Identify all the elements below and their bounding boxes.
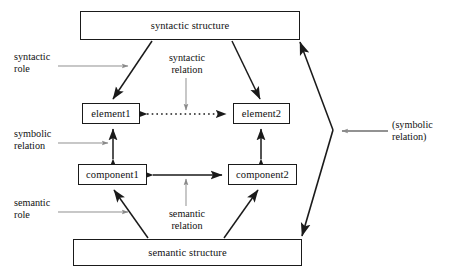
label-syntactic-relation: syntactic relation <box>158 52 216 76</box>
label-semantic-role-line1: semantic <box>14 197 50 209</box>
edge-semantic-structure-to-component2 <box>224 190 258 238</box>
node-syntactic-structure[interactable]: syntactic structure <box>80 11 300 40</box>
label-semantic-role: semantic role <box>14 197 50 221</box>
label-symbolic-relation: symbolic relation <box>14 128 51 152</box>
label-symbolic-relation-line1: symbolic <box>14 128 51 140</box>
label-semantic-role-line2: role <box>14 209 50 221</box>
label-syntactic-role-line1: syntactic <box>14 51 50 63</box>
node-semantic-structure-label: semantic structure <box>148 247 226 258</box>
edge-syntactic-structure-to-element2 <box>232 41 260 99</box>
label-semantic-relation-line1: semantic <box>158 208 216 220</box>
label-symbolic-relation-paren-line2: relation) <box>392 131 433 143</box>
node-element1[interactable]: element1 <box>82 103 140 124</box>
node-component2[interactable]: component2 <box>228 164 297 185</box>
node-element2[interactable]: element2 <box>233 103 290 124</box>
node-element1-label: element1 <box>91 108 130 119</box>
label-syntactic-role: syntactic role <box>14 51 50 75</box>
label-semantic-relation-line2: relation <box>158 220 216 232</box>
diagram-connectors: element2 dotted --> component1 vertical … <box>0 0 450 278</box>
label-symbolic-relation-paren-line1: (symbolic <box>392 119 433 131</box>
label-syntactic-role-line2: role <box>14 63 50 75</box>
node-semantic-structure[interactable]: semantic structure <box>73 239 302 266</box>
label-symbolic-relation-paren: (symbolic relation) <box>392 119 433 143</box>
label-semantic-relation: semantic relation <box>158 208 216 232</box>
edge-syntactic-structure-to-element1 <box>113 41 152 99</box>
label-syntactic-relation-line1: syntactic <box>158 52 216 64</box>
node-component1[interactable]: component1 <box>78 164 147 185</box>
node-syntactic-structure-label: syntactic structure <box>151 20 230 31</box>
edge-symbolic-relation-chevron <box>300 42 333 236</box>
node-element2-label: element2 <box>242 108 281 119</box>
node-component1-label: component1 <box>86 169 139 180</box>
label-symbolic-relation-line2: relation <box>14 140 51 152</box>
edge-semantic-structure-to-component1 <box>114 190 148 238</box>
node-component2-label: component2 <box>236 169 289 180</box>
label-syntactic-relation-line2: relation <box>158 64 216 76</box>
diagram-canvas: element2 dotted --> component1 vertical … <box>0 0 450 278</box>
